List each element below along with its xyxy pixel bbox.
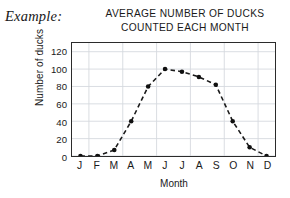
x-tick-label: F [88, 160, 106, 171]
plot-svg [72, 43, 275, 156]
chart-title-line-2: COUNTED EACH MONTH [86, 21, 284, 35]
y-tick-label: 100 [33, 63, 67, 74]
y-axis-tick-labels: 020406080100120 [31, 42, 67, 157]
y-tick-label: 120 [33, 45, 67, 56]
x-tick-label: A [190, 160, 208, 171]
x-axis-title: Month [71, 178, 277, 189]
x-tick-label: J [173, 160, 191, 171]
data-series-line [80, 69, 266, 156]
x-tick-label: O [224, 160, 242, 171]
y-tick-label: 40 [33, 116, 67, 127]
data-point-markers [78, 67, 269, 156]
x-tick-label: M [139, 160, 157, 171]
x-tick-label: A [122, 160, 140, 171]
x-tick-label: D [258, 160, 276, 171]
chart-title: AVERAGE NUMBER OF DUCKS COUNTED EACH MON… [86, 7, 284, 34]
duck-count-chart: AVERAGE NUMBER OF DUCKS COUNTED EACH MON… [0, 0, 290, 198]
plot-area [71, 42, 276, 157]
x-tick-label: M [105, 160, 123, 171]
x-tick-label: J [156, 160, 174, 171]
chart-page: Example: AVERAGE NUMBER OF DUCKS COUNTED… [0, 0, 290, 198]
y-tick-label: 20 [33, 134, 67, 145]
y-tick-label: 0 [33, 152, 67, 163]
x-tick-label: S [207, 160, 225, 171]
x-tick-label: N [241, 160, 259, 171]
y-tick-label: 80 [33, 81, 67, 92]
y-tick-label: 60 [33, 98, 67, 109]
x-tick-label: J [71, 160, 89, 171]
x-axis-tick-labels: JFMAMJJASOND [71, 160, 276, 176]
chart-title-line-1: AVERAGE NUMBER OF DUCKS [86, 7, 284, 21]
